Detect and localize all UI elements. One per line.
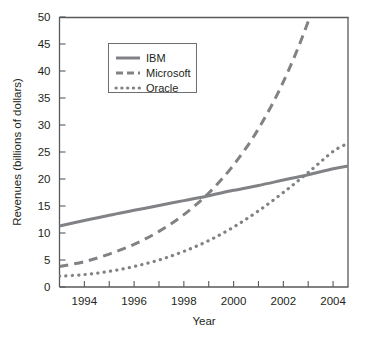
series-line-oracle: [60, 143, 349, 276]
x-axis-title: Year: [192, 315, 215, 327]
y-tick-label: 0: [44, 281, 50, 293]
x-axis: 199419961998200020022004 Year: [60, 17, 349, 327]
x-tick-label: 1996: [121, 295, 147, 307]
series-line-ibm: [60, 166, 349, 226]
legend-label-microsoft: Microsoft: [146, 67, 191, 79]
x-tick-label: 2002: [271, 295, 297, 307]
y-tick-label: 40: [38, 65, 51, 77]
y-axis-tick-labels: 05101520253035404550: [38, 11, 51, 293]
y-tick-label: 45: [38, 38, 51, 50]
y-axis-ticks: [60, 17, 66, 287]
x-tick-label: 2000: [221, 295, 247, 307]
chart-canvas: 05101520253035404550 Revenues (billions …: [0, 0, 366, 340]
y-tick-label: 10: [38, 227, 51, 239]
legend: IBMMicrosoftOracle: [109, 44, 197, 95]
revenues-line-chart: 05101520253035404550 Revenues (billions …: [0, 0, 366, 340]
x-tick-label: 1998: [171, 295, 197, 307]
y-tick-label: 5: [44, 254, 50, 266]
y-tick-label: 25: [38, 146, 51, 158]
y-tick-label: 20: [38, 173, 51, 185]
y-tick-label: 15: [38, 200, 51, 212]
x-tick-label: 2004: [320, 295, 346, 307]
x-tick-label: 1994: [72, 295, 98, 307]
y-tick-label: 35: [38, 92, 51, 104]
y-axis-title: Revenues (billions of dollars): [11, 78, 23, 226]
x-axis-ticks: [84, 281, 333, 287]
legend-label-oracle: Oracle: [146, 82, 178, 94]
legend-label-ibm: IBM: [146, 52, 166, 64]
y-axis: 05101520253035404550 Revenues (billions …: [11, 11, 66, 293]
series-line-microsoft: [60, 0, 349, 266]
x-axis-tick-labels: 199419961998200020022004: [72, 295, 347, 307]
data-series-group: [60, 0, 349, 276]
y-tick-label: 50: [38, 11, 51, 23]
y-tick-label: 30: [38, 119, 51, 131]
